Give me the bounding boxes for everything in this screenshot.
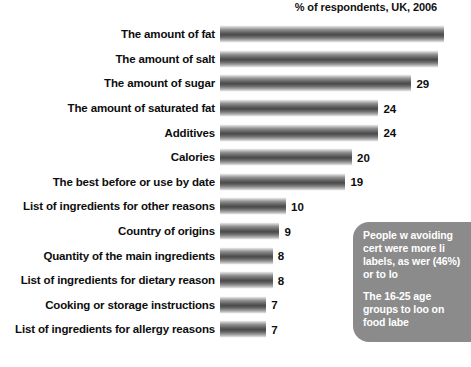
category-label: List of ingredients for allergy reasons <box>15 323 215 335</box>
bar <box>220 75 411 92</box>
bar-group: 8 <box>220 247 284 264</box>
bar-group: 20 <box>220 149 370 166</box>
callout-paragraph-2: The 16-25 age groups to loo on food labe <box>363 290 463 329</box>
chart-row: Additives24 <box>0 120 442 145</box>
bar-value-label: 20 <box>357 151 370 163</box>
category-label: Calories <box>171 151 215 163</box>
chart-row: The amount of fat <box>0 22 442 47</box>
bar <box>220 50 438 67</box>
bar-value-label: 9 <box>284 225 290 237</box>
category-label: Quantity of the main ingredients <box>43 250 215 262</box>
chart-row: List of ingredients for other reasons10 <box>0 194 442 219</box>
chart-row: The amount of salt <box>0 47 442 72</box>
bar <box>220 296 266 313</box>
bar <box>220 149 352 166</box>
bar-value-label: 29 <box>416 77 429 89</box>
bar <box>220 321 266 338</box>
bar <box>220 100 378 117</box>
bar <box>220 173 345 190</box>
chart-row: The best before or use by date19 <box>0 170 442 195</box>
bar-value-label: 19 <box>350 176 363 188</box>
category-label: The amount of salt <box>115 53 215 65</box>
chart-title: % of respondents, UK, 2006 <box>295 1 437 13</box>
bar <box>220 272 273 289</box>
bar <box>220 26 444 43</box>
category-label: Additives <box>165 127 215 139</box>
category-label: List of ingredients for other reasons <box>23 200 215 212</box>
bar <box>220 198 286 215</box>
category-label: Cooking or storage instructions <box>45 299 215 311</box>
bar-group: 29 <box>220 75 429 92</box>
callout-box: People w avoiding cert were more li labe… <box>353 222 471 342</box>
bar-group: 24 <box>220 124 396 141</box>
bar-value-label: 8 <box>278 250 284 262</box>
bar <box>220 247 273 264</box>
bar-group <box>220 50 438 67</box>
category-label: The amount of saturated fat <box>68 102 215 114</box>
bar-value-label: 8 <box>278 274 284 286</box>
bar-group: 7 <box>220 296 278 313</box>
bar-group: 24 <box>220 100 396 117</box>
category-label: Country of origins <box>118 225 215 237</box>
bar <box>220 223 279 240</box>
bar-value-label: 24 <box>383 102 396 114</box>
bar-group: 8 <box>220 272 284 289</box>
category-label: The best before or use by date <box>53 176 215 188</box>
bar-group <box>220 26 444 43</box>
bar-group: 7 <box>220 321 278 338</box>
chart-row: The amount of sugar29 <box>0 71 442 96</box>
bar-group: 10 <box>220 198 304 215</box>
category-label: List of ingredients for dietary reason <box>21 274 215 286</box>
category-label: The amount of fat <box>121 28 215 40</box>
category-label: The amount of sugar <box>104 77 215 89</box>
chart-row: Calories20 <box>0 145 442 170</box>
bar-group: 19 <box>220 173 363 190</box>
bar-value-label: 10 <box>291 200 304 212</box>
callout-paragraph-1: People w avoiding cert were more li labe… <box>363 229 463 281</box>
bar-value-label: 7 <box>271 323 277 335</box>
bar <box>220 124 378 141</box>
chart-row: The amount of saturated fat24 <box>0 96 442 121</box>
bar-value-label: 7 <box>271 299 277 311</box>
bar-group: 9 <box>220 223 291 240</box>
bar-value-label: 24 <box>383 127 396 139</box>
